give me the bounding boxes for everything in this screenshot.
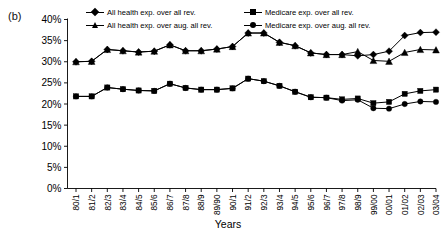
data-point-marker xyxy=(261,78,266,83)
series-line xyxy=(76,32,436,62)
x-axis-tick-label: 01/02 xyxy=(401,194,410,215)
data-point-marker xyxy=(183,85,188,90)
series-line xyxy=(76,79,436,104)
series-3 xyxy=(73,76,438,111)
y-axis-tick-label: 25% xyxy=(41,77,61,88)
data-point-marker xyxy=(105,85,110,90)
data-point-marker xyxy=(308,95,313,100)
x-axis-tick-label: 94/5 xyxy=(291,194,300,210)
x-axis-tick-label: 96/7 xyxy=(323,194,332,210)
data-point-marker xyxy=(136,88,141,93)
x-axis-title: Years xyxy=(215,218,241,230)
data-point-marker xyxy=(167,81,172,86)
x-axis-tick-label: 97/8 xyxy=(338,194,347,210)
x-axis-tick-label: 88/9 xyxy=(197,194,206,210)
data-point-marker xyxy=(292,89,297,94)
y-axis-tick-label: 15% xyxy=(41,120,61,131)
plot-area: 0%5%10%15%20%25%30%35%40% 80/181/282/383… xyxy=(0,0,441,235)
x-axis-tick-label: 89/90 xyxy=(213,194,222,215)
data-point-marker xyxy=(418,88,423,93)
data-point-marker xyxy=(120,87,125,92)
y-axis-tick-label: 30% xyxy=(41,56,61,67)
data-point-marker xyxy=(245,76,250,81)
data-point-marker xyxy=(230,86,235,91)
series-line xyxy=(76,33,436,62)
y-axis-ticks: 0%5%10%15%20%25%30%35%40% xyxy=(41,14,67,194)
data-point-marker xyxy=(355,97,360,102)
x-axis-tick-label: 91/2 xyxy=(244,194,253,210)
data-series-group xyxy=(73,29,440,112)
x-axis-tick-label: 85/6 xyxy=(150,194,159,210)
data-point-marker xyxy=(402,101,407,106)
data-point-marker xyxy=(371,101,376,106)
y-axis-tick-label: 40% xyxy=(41,14,61,25)
y-axis-tick-label: 10% xyxy=(41,141,61,152)
x-axis-tick-label: 84/5 xyxy=(135,194,144,210)
x-axis-tick-label: 80/1 xyxy=(72,194,81,210)
data-point-marker xyxy=(89,94,94,99)
series-2 xyxy=(73,76,438,106)
data-point-marker xyxy=(417,29,424,36)
axis-lines xyxy=(68,19,437,189)
x-axis-tick-label: 83/4 xyxy=(119,194,128,210)
x-axis-tick-label: 98/9 xyxy=(354,194,363,210)
x-axis-tick-label: 99/00 xyxy=(370,194,379,215)
x-axis-tick-label: 86/7 xyxy=(166,194,175,210)
data-point-marker xyxy=(386,106,391,111)
data-point-marker xyxy=(199,87,204,92)
data-point-marker xyxy=(433,29,440,36)
data-point-marker xyxy=(402,91,407,96)
x-axis-tick-label: 82/3 xyxy=(104,194,113,210)
y-axis-tick-label: 20% xyxy=(41,99,61,110)
data-point-marker xyxy=(433,87,438,92)
x-axis-tick-label: 02/03 xyxy=(417,194,426,215)
data-point-marker xyxy=(386,99,391,104)
data-point-marker xyxy=(433,99,438,104)
series-1 xyxy=(73,30,440,65)
x-axis-ticks: 80/181/282/383/484/585/686/787/888/989/9… xyxy=(72,189,441,216)
x-axis-tick-label: 87/8 xyxy=(182,194,191,210)
data-point-marker xyxy=(371,106,376,111)
x-axis-tick-label: 95/6 xyxy=(307,194,316,210)
x-axis-tick-label: 93/4 xyxy=(276,194,285,210)
x-axis-tick-label: 92/3 xyxy=(260,194,269,210)
data-point-marker xyxy=(152,88,157,93)
data-point-marker xyxy=(354,48,361,54)
data-point-marker xyxy=(214,87,219,92)
data-point-marker xyxy=(277,83,282,88)
data-point-marker xyxy=(339,98,344,103)
chart-figure: (b) All health exp. over all rev. Medica… xyxy=(0,0,441,235)
data-point-marker xyxy=(324,95,329,100)
x-axis-tick-label: 90/1 xyxy=(229,194,238,210)
x-axis-tick-label: 00/01 xyxy=(385,194,394,215)
data-point-marker xyxy=(418,99,423,104)
line-chart-svg: 0%5%10%15%20%25%30%35%40% 80/181/282/383… xyxy=(0,0,441,235)
x-axis-tick-label: 03/04 xyxy=(432,194,441,215)
y-axis-tick-label: 0% xyxy=(47,183,62,194)
series-0 xyxy=(73,29,440,66)
x-axis-tick-label: 81/2 xyxy=(88,194,97,210)
data-point-marker xyxy=(73,94,78,99)
y-axis-tick-label: 5% xyxy=(47,162,62,173)
y-axis-tick-label: 35% xyxy=(41,35,61,46)
series-line xyxy=(76,79,436,109)
